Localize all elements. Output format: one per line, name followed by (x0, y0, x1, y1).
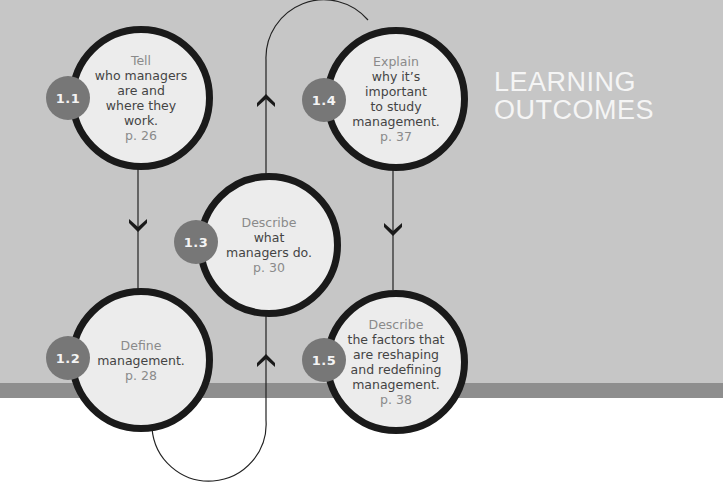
outcome-page: p. 26 (125, 128, 157, 143)
outcome-badge-1-3: 1.3 (174, 220, 218, 264)
outcome-description: work. (124, 113, 158, 128)
outcome-verb: Describe (242, 215, 297, 230)
outcome-circle-1-1: Tell who managers are and where they wor… (69, 26, 213, 170)
outcome-page: p. 30 (253, 260, 285, 275)
outcome-circle-1-2: Define management. p. 28 (69, 288, 213, 432)
title-line-2: OUTCOMES (494, 96, 654, 124)
page-title: LEARNING OUTCOMES (494, 68, 654, 124)
outcome-badge-1-2: 1.2 (46, 336, 90, 380)
outcome-page: p. 37 (380, 129, 412, 144)
outcome-verb: Define (121, 338, 162, 353)
outcome-badge-1-1: 1.1 (46, 76, 90, 120)
outcome-circle-1-3: Describe what managers do. p. 30 (197, 173, 341, 317)
outcome-description: are reshaping (353, 347, 439, 362)
outcome-verb: Tell (131, 53, 151, 68)
outcome-description: important (365, 84, 427, 99)
outcome-description: managers do. (226, 245, 312, 260)
outcome-badge-1-5: 1.5 (302, 338, 346, 382)
outcome-description: to study (370, 99, 421, 114)
outcome-description: are and (117, 83, 165, 98)
outcome-description: where they (106, 98, 176, 113)
outcome-verb: Explain (373, 54, 419, 69)
outcome-description: what (254, 230, 285, 245)
outcome-description: why it’s (372, 69, 420, 84)
outcome-description: management. (97, 353, 185, 368)
outcome-description: management. (352, 114, 440, 129)
outcome-page: p. 28 (125, 368, 157, 383)
outcome-verb: Describe (369, 317, 424, 332)
outcome-badge-1-4: 1.4 (302, 78, 346, 122)
outcome-description: the factors that (348, 332, 445, 347)
title-line-1: LEARNING (494, 68, 654, 96)
outcome-page: p. 38 (380, 392, 412, 407)
outcome-description: who managers (95, 68, 187, 83)
outcome-description: and redefining (351, 362, 442, 377)
outcome-description: management. (352, 377, 440, 392)
